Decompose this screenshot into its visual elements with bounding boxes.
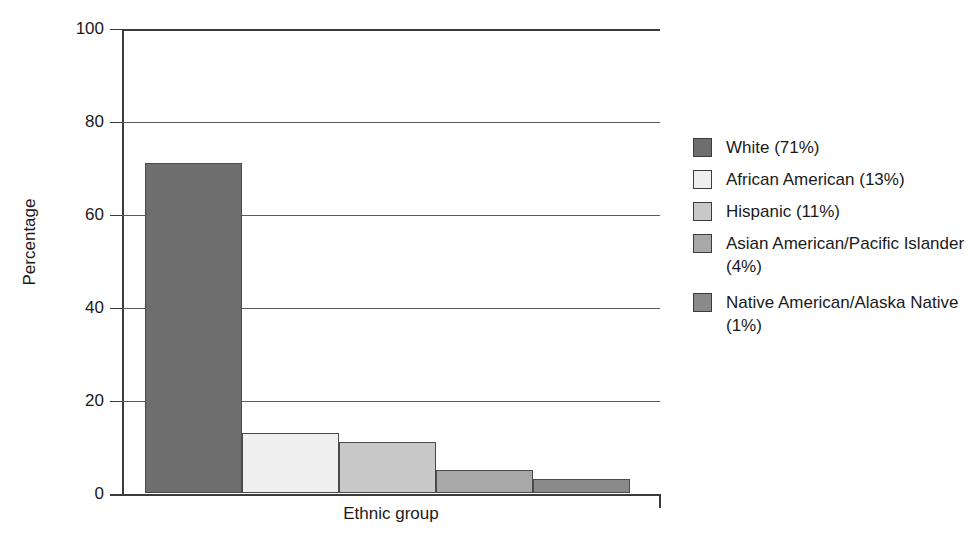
y-axis-tick bbox=[110, 122, 122, 123]
y-axis-tick bbox=[110, 308, 122, 309]
legend-item-label: Native American/Alaska Native (1%) bbox=[726, 291, 968, 337]
legend-swatch-icon bbox=[693, 202, 712, 221]
legend-item[interactable]: Native American/Alaska Native (1%) bbox=[693, 291, 968, 337]
y-axis-tick-label: 40 bbox=[85, 298, 104, 318]
legend-swatch-icon bbox=[693, 170, 712, 189]
bar bbox=[242, 433, 339, 493]
bar-chart-figure: Percentage 020406080100 Ethnic group Whi… bbox=[0, 0, 974, 540]
y-axis-tick bbox=[110, 494, 122, 495]
legend-swatch-icon bbox=[693, 138, 712, 157]
legend-item-label: Asian American/Pacific Islander (4%) bbox=[726, 232, 968, 278]
legend-item[interactable]: African American (13%) bbox=[693, 168, 968, 191]
bars-group bbox=[145, 28, 631, 493]
legend-item[interactable]: Hispanic (11%) bbox=[693, 200, 968, 223]
legend-item-label: White (71%) bbox=[726, 136, 820, 159]
x-axis-line bbox=[110, 494, 661, 496]
y-axis-tick-label: 60 bbox=[85, 205, 104, 225]
legend: White (71%)African American (13%)Hispani… bbox=[693, 136, 968, 346]
y-axis-line bbox=[122, 29, 124, 496]
legend-swatch-icon bbox=[693, 234, 712, 253]
legend-item-label: African American (13%) bbox=[726, 168, 905, 191]
y-axis-tick-label: 80 bbox=[85, 112, 104, 132]
bar bbox=[533, 479, 630, 493]
legend-item-label: Hispanic (11%) bbox=[726, 200, 840, 223]
bar bbox=[145, 163, 242, 493]
bar bbox=[436, 470, 533, 493]
y-axis-tick-label: 0 bbox=[95, 484, 104, 504]
y-axis-tick bbox=[110, 215, 122, 216]
y-axis-tick bbox=[110, 29, 122, 30]
y-axis-tick bbox=[110, 401, 122, 402]
y-axis-title: Percentage bbox=[20, 162, 40, 322]
legend-item[interactable]: White (71%) bbox=[693, 136, 968, 159]
legend-item[interactable]: Asian American/Pacific Islander (4%) bbox=[693, 232, 968, 278]
y-axis-tick-label: 100 bbox=[76, 19, 104, 39]
bar bbox=[339, 442, 436, 493]
plot-area: 020406080100 bbox=[122, 29, 660, 494]
legend-swatch-icon bbox=[693, 293, 712, 312]
y-axis-tick-label: 20 bbox=[85, 391, 104, 411]
x-axis-title: Ethnic group bbox=[122, 504, 660, 524]
